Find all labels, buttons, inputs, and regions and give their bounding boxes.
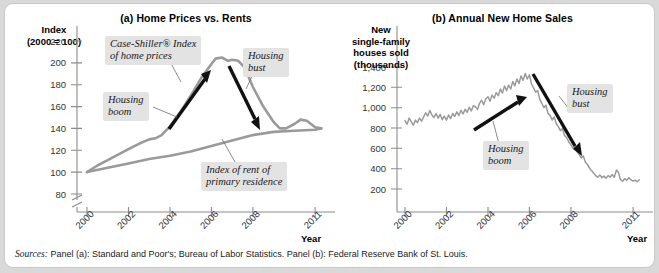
- svg-text:600: 600: [370, 143, 386, 154]
- callout-rent-index: Index of rent of primary residence: [201, 162, 287, 191]
- panel-b-y-axis-label: New single-family houses sold (thousands…: [339, 24, 423, 70]
- svg-text:120: 120: [50, 145, 66, 156]
- sources-lead-label: Sources:: [15, 249, 48, 259]
- svg-text:180: 180: [50, 79, 66, 90]
- svg-text:80: 80: [55, 189, 66, 200]
- figure-panel: (a) Home Prices vs. Rents Index (2000 = …: [4, 3, 655, 268]
- svg-text:400: 400: [370, 163, 386, 174]
- panel-b-x-axis-label: Year: [627, 233, 647, 244]
- svg-text:1,000: 1,000: [362, 102, 386, 113]
- chart-panel-b: (b) Annual New Home Sales 1,400 1,200 1,…: [335, 4, 655, 242]
- svg-text:1,200: 1,200: [362, 82, 386, 93]
- panel-a-housing-boom-arrow: [169, 70, 211, 129]
- callout-panel-a-housing-bust: Housing bust: [243, 48, 289, 77]
- svg-text:200: 200: [370, 184, 386, 195]
- chart-panel-a: (a) Home Prices vs. Rents Index (2000 = …: [5, 4, 341, 242]
- callout-panel-b-housing-bust: Housing bust: [567, 84, 613, 113]
- panel-a-x-ticks: 2000 2002 2004 2006 2008 2011: [73, 207, 324, 231]
- svg-text:140: 140: [50, 123, 66, 134]
- svg-text:800: 800: [370, 123, 386, 134]
- callout-case-shiller-index: Case-Shiller® Index of home prices: [105, 36, 201, 65]
- figure-sources: Sources: Panel (a): Standard and Poor's;…: [15, 249, 468, 259]
- panel-b-x-ticks: 2000 2002 2004 2006 2008 2011: [391, 207, 642, 231]
- callout-panel-b-housing-boom: Housing boom: [483, 141, 529, 170]
- svg-text:220: 220: [50, 36, 66, 47]
- callout-panel-a-housing-boom: Housing boom: [103, 92, 149, 121]
- panel-b-y-ticks: 1,400 1,200 1,000 800 600 400 200: [362, 62, 402, 195]
- svg-text:100: 100: [50, 167, 66, 178]
- svg-text:160: 160: [50, 101, 66, 112]
- panel-a-boom-leader-line: [153, 107, 177, 117]
- svg-text:200: 200: [50, 57, 66, 68]
- sources-text: Panel (a): Standard and Poor's; Bureau o…: [48, 249, 468, 259]
